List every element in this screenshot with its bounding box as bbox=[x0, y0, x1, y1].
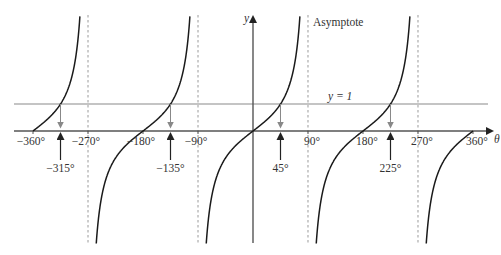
tan-branch bbox=[316, 16, 410, 243]
x-tick-label: −270° bbox=[72, 135, 101, 147]
x-tick-label: −90° bbox=[185, 135, 208, 147]
x-tick-label: 180° bbox=[356, 135, 378, 147]
y-axis-label: y bbox=[243, 12, 250, 25]
tan-branch bbox=[33, 16, 80, 131]
tan-branch bbox=[426, 131, 473, 243]
x-tick-label: 90° bbox=[304, 135, 321, 147]
tan-graph: −315°−135°45°225° −360°−270°−180°−90°90°… bbox=[0, 0, 501, 255]
solution-label: −315° bbox=[46, 162, 75, 174]
theta-axis-label: θ bbox=[494, 133, 500, 145]
x-tick-label: 270° bbox=[411, 135, 433, 147]
tan-branch bbox=[96, 16, 190, 243]
x-tick-label: −180° bbox=[127, 135, 156, 147]
x-tick-label: 360° bbox=[466, 135, 488, 147]
x-tick-label: −360° bbox=[17, 135, 46, 147]
y-equals-1-label: y = 1 bbox=[327, 90, 352, 103]
asymptote-label: Asymptote bbox=[313, 16, 363, 29]
solution-label: −135° bbox=[156, 162, 185, 174]
solution-label: 45° bbox=[272, 162, 289, 174]
solution-label: 225° bbox=[380, 162, 402, 174]
